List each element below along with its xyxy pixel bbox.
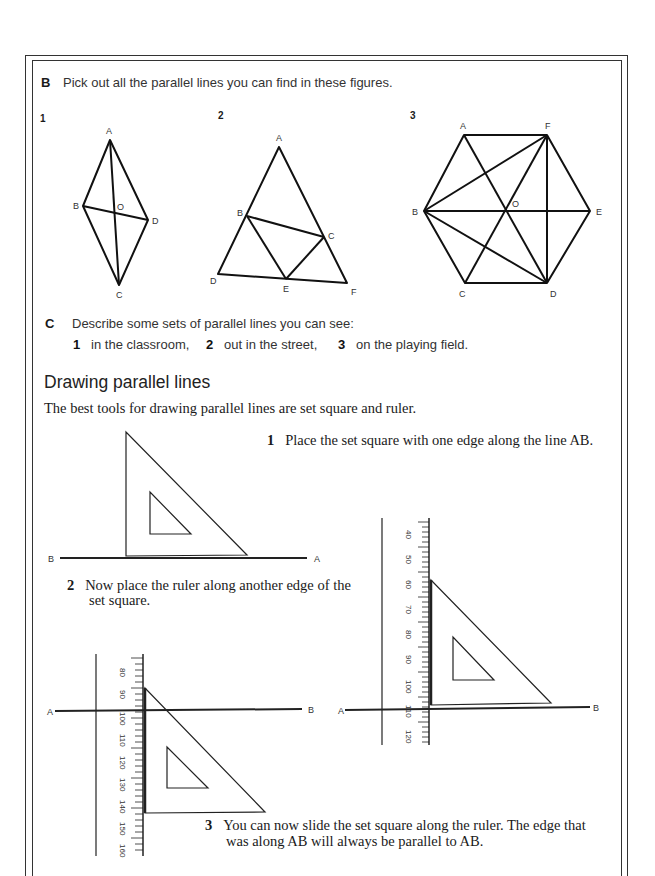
step-number: 1 bbox=[267, 432, 274, 448]
section-c-item-2: 2 out in the street, bbox=[206, 337, 317, 352]
diagram1-label-b: B bbox=[48, 554, 54, 564]
ruler2-tick-140: 140 bbox=[118, 800, 127, 814]
step-text-line2: set square. bbox=[67, 592, 150, 608]
step-text-line1: Now place the ruler along another edge o… bbox=[85, 577, 351, 593]
ruler3-tick-90: 90 bbox=[404, 655, 413, 664]
fig1-label-a: A bbox=[106, 126, 112, 136]
ruler2-tick-80: 80 bbox=[118, 668, 127, 677]
fig2-label-f: F bbox=[351, 287, 357, 297]
step-text-line1: You can now slide the set square along t… bbox=[223, 817, 586, 833]
ruler2-tick-150: 150 bbox=[118, 822, 127, 836]
item-number: 2 bbox=[206, 337, 213, 352]
section-c-prompt: Describe some sets of parallel lines you… bbox=[72, 316, 354, 331]
fig1-label-o: O bbox=[117, 202, 124, 212]
item-text: in the classroom, bbox=[91, 337, 189, 352]
ruler2-tick-110: 110 bbox=[118, 734, 127, 747]
fig2-label-a: A bbox=[276, 133, 282, 143]
section-c-letter: C bbox=[45, 316, 54, 331]
diagram-1-set-square bbox=[60, 432, 307, 558]
fig3-label-f: F bbox=[545, 121, 551, 131]
step-1: 1 Place the set square with one edge alo… bbox=[267, 432, 593, 449]
fig3-label-a: A bbox=[460, 121, 466, 131]
fig3-label-d: D bbox=[550, 289, 557, 299]
step-text: Place the set square with one edge along… bbox=[285, 432, 593, 448]
ruler3-tick-100: 100 bbox=[404, 680, 413, 694]
fig3-label-b: B bbox=[412, 207, 418, 217]
section-c-item-1: 1 in the classroom, bbox=[73, 337, 189, 352]
ruler3-tick-50: 50 bbox=[404, 555, 413, 564]
item-text: out in the street, bbox=[224, 337, 317, 352]
step-number: 3 bbox=[205, 817, 212, 833]
fig3-label-o: O bbox=[512, 199, 519, 209]
step-number: 2 bbox=[67, 577, 74, 593]
ruler2-tick-90: 90 bbox=[118, 690, 127, 699]
figure-3-hexagon bbox=[424, 135, 590, 283]
diagram2-label-a: A bbox=[47, 707, 53, 717]
fig2-label-b: B bbox=[237, 208, 243, 218]
ruler3-tick-70: 70 bbox=[404, 605, 413, 614]
ruler3-tick-80: 80 bbox=[404, 630, 413, 639]
ruler2-tick-120: 120 bbox=[118, 756, 127, 770]
fig1-label-b: B bbox=[73, 201, 79, 211]
fig3-label-c: C bbox=[459, 289, 466, 299]
section-c-item-3: 3 on the playing field. bbox=[338, 337, 468, 352]
fig3-label-e: E bbox=[596, 207, 602, 217]
fig1-label-d: D bbox=[152, 216, 159, 226]
step-3: 3 You can now slide the set square along… bbox=[205, 817, 586, 849]
diagram-3-ruler-setsquare bbox=[345, 518, 590, 745]
item-number: 1 bbox=[73, 337, 80, 352]
step-2: 2 Now place the ruler along another edge… bbox=[67, 578, 351, 608]
ruler2-tick-100: 100 bbox=[118, 712, 127, 726]
ruler3-tick-40: 40 bbox=[404, 530, 413, 539]
figure-1-rhombus bbox=[83, 140, 148, 285]
diagram1-label-a: A bbox=[314, 554, 320, 564]
fig2-label-c: C bbox=[328, 231, 335, 241]
section-heading: Drawing parallel lines bbox=[44, 372, 210, 393]
intro-text: The best tools for drawing parallel line… bbox=[44, 400, 416, 417]
ruler3-tick-120: 120 bbox=[404, 730, 413, 744]
fig2-label-e: E bbox=[283, 284, 289, 294]
ruler3-tick-110: 110 bbox=[404, 705, 413, 718]
fig2-label-d: D bbox=[210, 276, 217, 286]
diagram3-label-a: A bbox=[338, 706, 344, 716]
diagram3-label-b: B bbox=[593, 703, 599, 713]
ruler3-tick-60: 60 bbox=[404, 580, 413, 589]
item-number: 3 bbox=[338, 337, 345, 352]
fig1-label-c: C bbox=[116, 290, 123, 300]
ruler2-tick-130: 130 bbox=[118, 778, 127, 792]
diagram2-label-b: B bbox=[308, 705, 314, 715]
ruler2-tick-160: 160 bbox=[118, 844, 127, 858]
step-text-line2: was along AB will always be parallel to … bbox=[205, 833, 483, 849]
item-text: on the playing field. bbox=[356, 337, 468, 352]
